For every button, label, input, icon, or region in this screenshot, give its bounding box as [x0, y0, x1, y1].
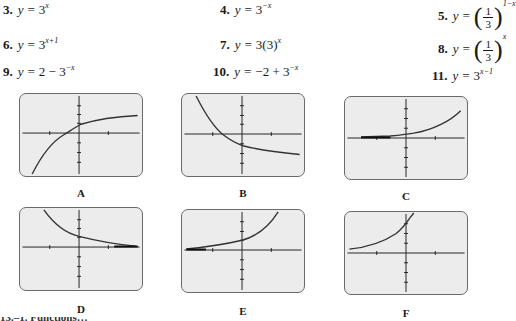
- equation-8: 8.y = (13)x: [438, 37, 506, 63]
- equation-10: 10.y = −2 + 3−x: [213, 64, 298, 80]
- graph-f-label: F: [344, 307, 468, 319]
- equation-3: 3.y = 3x: [3, 2, 49, 18]
- graph-b-label: B: [181, 187, 305, 199]
- graph-c: [344, 96, 468, 180]
- equation-9: 9.y = 2 − 3−x: [3, 64, 75, 80]
- graph-d-plot: [20, 208, 142, 290]
- equation-11: 11.y = 3x−1: [432, 68, 493, 84]
- graph-f-plot: [345, 212, 467, 294]
- graph-c-label: C: [344, 190, 468, 202]
- graph-a-label: A: [19, 187, 143, 199]
- graph-c-plot: [345, 97, 467, 179]
- graph-d: [19, 207, 143, 291]
- graph-a: [19, 93, 143, 177]
- graph-e-label: E: [181, 305, 305, 317]
- graph-a-plot: [20, 94, 142, 176]
- equation-6: 6.y = 3x+1: [3, 37, 58, 53]
- equation-7: 7.y = 3(3)x: [220, 37, 281, 53]
- graph-b: [181, 93, 305, 177]
- graph-d-label: D: [19, 303, 143, 315]
- clipped-footer-text: 13.–1. Functions…: [0, 317, 220, 321]
- equation-5: 5.y = (13)1−x: [438, 4, 516, 30]
- graph-b-plot: [182, 94, 304, 176]
- graph-e: [181, 209, 305, 293]
- fraction-one-third: 13: [483, 5, 493, 30]
- fraction-one-third: 13: [483, 38, 493, 63]
- equation-4: 4.y = 3−x: [220, 2, 271, 18]
- graph-e-plot: [182, 210, 304, 292]
- graph-f: [344, 211, 468, 295]
